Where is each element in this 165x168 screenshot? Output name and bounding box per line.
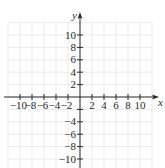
y-tick-label: −8 — [64, 140, 76, 152]
x-tick-label: 4 — [101, 99, 107, 111]
y-tick-label: −6 — [64, 128, 76, 140]
x-tick-label: 8 — [125, 99, 131, 111]
x-tick-label: −8 — [25, 99, 37, 111]
y-tick-label: 8 — [71, 41, 77, 53]
x-tick-label: 6 — [113, 99, 119, 111]
x-tick-label: 2 — [89, 99, 95, 111]
x-tick-label: −2 — [61, 99, 73, 111]
coordinate-plane: −10−8−6−4−2246810 −10−8−6−4246810 x y — [0, 0, 165, 168]
x-axis-label: x — [157, 96, 163, 108]
x-tick-label: −6 — [37, 99, 49, 111]
y-tick-label: −10 — [59, 153, 77, 165]
x-tick-label: 10 — [135, 99, 147, 111]
y-tick-label: 4 — [71, 66, 77, 78]
y-tick-label: 10 — [65, 29, 77, 41]
y-tick-label: 6 — [71, 53, 77, 65]
y-axis-label: y — [71, 9, 77, 21]
y-tick-label: −4 — [64, 115, 76, 127]
y-tick-label: 2 — [71, 78, 77, 90]
x-tick-label: −4 — [49, 99, 61, 111]
